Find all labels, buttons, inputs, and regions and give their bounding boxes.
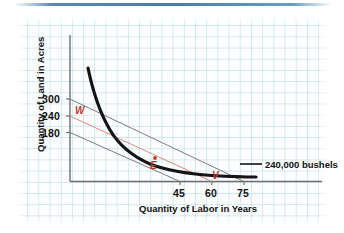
x-axis-title: Quantity of Labor in Years (139, 203, 257, 214)
isoquant-curve (88, 68, 256, 177)
x-tick-label-45: 45 (173, 187, 185, 199)
point-label-v: V (212, 170, 219, 181)
output-label: 240,000 bushels (265, 159, 338, 170)
x-tick-label-75: 75 (237, 187, 249, 199)
screenshot-root: 300 240 180 45 60 75 W E V 240,000 bushe… (0, 0, 344, 233)
point-label-w: W (75, 105, 84, 116)
y-axis-title: Quantity of Land in Acres (35, 37, 46, 152)
point-label-e: E (150, 160, 157, 171)
x-tick-label-60: 60 (205, 187, 217, 199)
isocost-tangent-line (70, 116, 212, 182)
isocost-low-line (70, 133, 180, 182)
